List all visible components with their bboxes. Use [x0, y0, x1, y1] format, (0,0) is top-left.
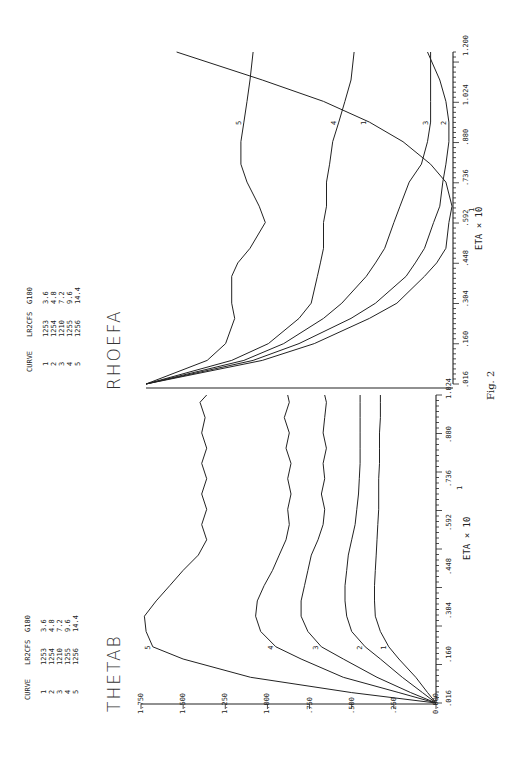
thetab-eta-tick-label: .880 — [445, 426, 453, 443]
rhoefa-curve-marker-2: 2 — [440, 121, 448, 125]
thetab-legend-cell: 4 — [64, 690, 72, 694]
thetab-legend-header: G180 — [24, 615, 32, 632]
thetab-legend-cell: 14.4 — [72, 615, 80, 632]
thetab-legend-cell: 1256 — [72, 648, 80, 665]
rhoefa-eta-tick-label: 1.024 — [462, 84, 470, 105]
thetab-value-tick-label: 1.000 — [263, 693, 271, 714]
rhoefa-eta-tick-label: .304 — [462, 290, 470, 307]
rhoefa-eta-tick-label: .736 — [462, 169, 470, 186]
thetab-eta-tick-label: .016 — [445, 690, 453, 707]
thetab-value-tick-label: 1.500 — [179, 693, 187, 714]
thetab-curve-3 — [301, 395, 436, 703]
rhoefa-legend-cell: 2 — [50, 362, 58, 366]
rhoefa-legend-cell: 3.6 — [42, 291, 50, 304]
thetab-legend-cell: 2 — [48, 690, 56, 694]
rhoefa-curve-marker-5: 5 — [235, 121, 243, 125]
thetab-legend-cell: 1253 — [40, 648, 48, 665]
thetab-value-tick-label: 1.250 — [221, 693, 229, 714]
thetab-legend-cell: 5 — [72, 690, 80, 694]
rhoefa-legend-cell: 1255 — [66, 320, 74, 337]
thetab-legend-cell: 1254 — [48, 648, 56, 665]
thetab-eta-tick-label: .592 — [445, 514, 453, 531]
rhoefa-title: RHOEFA — [104, 309, 124, 390]
thetab-curve-marker-2: 2 — [356, 646, 364, 650]
rhoefa-curve-marker-3: 3 — [422, 121, 430, 125]
rhoefa-plot — [146, 52, 459, 388]
rhoefa-curve-3 — [146, 52, 431, 384]
rhoefa-legend-cell: 1 — [42, 362, 50, 366]
rhoefa-legend-cell: 14.4 — [74, 287, 82, 304]
thetab-eta-tick-label: .448 — [445, 558, 453, 575]
rhoefa-curve-marker-1: 1 — [360, 121, 368, 125]
thetab-legend-cell: 1 — [40, 690, 48, 694]
thetab-curve-marker-5: 5 — [144, 646, 152, 650]
rhoefa-legend-cell: 4 — [66, 362, 74, 366]
thetab-eta-tick-label: .160 — [445, 646, 453, 663]
rhoefa-legend-cell: 5 — [74, 362, 82, 366]
rhoefa-legend-header: CURVE — [26, 351, 34, 372]
thetab-curve-5 — [144, 395, 436, 703]
thetab-curve-marker-3: 3 — [312, 646, 320, 650]
thetab-legend-cell: 1255 — [64, 648, 72, 665]
thetab-value-tick-label: 1.750 — [137, 693, 145, 714]
thetab-value-tick-label: .250 — [390, 697, 398, 714]
thetab-legend-cell: 4.8 — [48, 619, 56, 632]
thetab-curve-4 — [256, 395, 436, 703]
figure-canvas: 0.000.250.500.7501.0001.2501.5001.750.01… — [0, 0, 524, 759]
rhoefa-curve-5 — [146, 52, 265, 384]
thetab-curve-2 — [345, 395, 436, 703]
rhoefa-eta-tick-label: 1.200 — [462, 35, 470, 56]
rhoefa-eta-axis-exponent: 1 — [468, 208, 476, 212]
thetab-legend-cell: 3.6 — [40, 619, 48, 632]
rhoefa-curve-4 — [146, 52, 354, 384]
rhoefa-curve-marker-4: 4 — [330, 121, 338, 125]
thetab-curve-1 — [375, 395, 437, 703]
thetab-legend-cell: 7.2 — [56, 619, 64, 632]
rhoefa-legend-cell: 7.2 — [58, 291, 66, 304]
rhoefa-legend-header: G180 — [26, 287, 34, 304]
thetab-eta-tick-label: .304 — [445, 602, 453, 619]
rhoefa-eta-tick-label: .448 — [462, 250, 470, 267]
thetab-title: THETAB — [104, 634, 124, 712]
thetab-legend-header: LR2CFS — [24, 640, 32, 665]
rhoefa-legend-header: LR2CFS — [26, 312, 34, 337]
rhoefa-legend-cell: 9.6 — [66, 291, 74, 304]
thetab-value-tick-label: .500 — [348, 697, 356, 714]
rhoefa-eta-tick-label: .880 — [462, 129, 470, 146]
thetab-value-tick-label: .750 — [306, 697, 314, 714]
thetab-value-tick-label: 0.000 — [432, 693, 440, 714]
thetab-eta-axis-label: ETA × 10 — [462, 517, 472, 560]
figure-caption: Fig. 2 — [485, 371, 496, 400]
rhoefa-legend-cell: 3 — [58, 362, 66, 366]
rhoefa-legend-cell: 4.8 — [50, 291, 58, 304]
thetab-curve-marker-1: 1 — [380, 646, 388, 650]
rhoefa-curve-2 — [146, 52, 449, 384]
thetab-curve-marker-4: 4 — [267, 646, 275, 650]
rhoefa-legend-cell: 1254 — [50, 320, 58, 337]
rhoefa-legend-cell: 1256 — [74, 320, 82, 337]
thetab-legend-header: CURVE — [24, 679, 32, 700]
rhoefa-eta-tick-label: .160 — [462, 331, 470, 348]
rhoefa-legend-cell: 1210 — [58, 320, 66, 337]
thetab-legend-cell: 1210 — [56, 648, 64, 665]
thetab-legend-cell: 3 — [56, 690, 64, 694]
thetab-eta-tick-label: .736 — [445, 470, 453, 487]
thetab-eta-axis-exponent: 1 — [456, 486, 464, 490]
rhoefa-eta-axis-label: ETA × 10 — [474, 207, 484, 250]
rhoefa-eta-tick-label: .016 — [462, 371, 470, 388]
rhoefa-legend-cell: 1253 — [42, 320, 50, 337]
thetab-plot — [141, 395, 442, 709]
thetab-legend-cell: 9.6 — [64, 619, 72, 632]
